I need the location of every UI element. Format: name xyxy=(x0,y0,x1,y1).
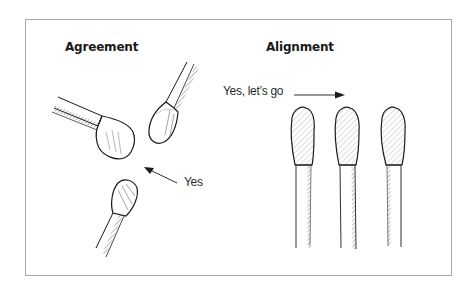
match-icon xyxy=(96,180,137,257)
match-icon xyxy=(52,97,134,159)
match-icon xyxy=(381,107,405,247)
match-icon xyxy=(335,107,359,249)
match-icon xyxy=(291,107,314,248)
arrow-icon xyxy=(294,92,345,99)
arrow-icon xyxy=(144,167,177,183)
match-icon xyxy=(149,62,197,143)
matchstick-illustration xyxy=(0,0,475,297)
